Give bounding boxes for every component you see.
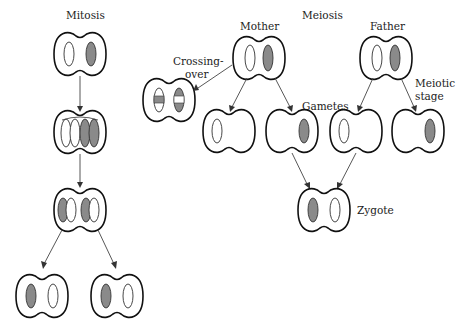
arrow-icon <box>41 230 62 269</box>
father-label: Father <box>370 20 406 32</box>
arrow-icon <box>337 153 356 189</box>
crossed-chromosome-right <box>174 88 184 112</box>
crossed-chromosome-left <box>154 88 164 112</box>
mother-cell <box>233 37 285 80</box>
arrow-icon <box>292 153 310 189</box>
meiotic-stage-label-line2: stage <box>415 90 444 102</box>
zygote-cell <box>298 189 350 232</box>
mother-gamete-cell-2 <box>266 110 318 153</box>
arrow-icon <box>357 78 373 112</box>
mitosis-parent-cell <box>54 33 106 76</box>
father-gamete-cell-2 <box>392 110 444 153</box>
crossing-over-label-line2: over <box>185 68 209 80</box>
meiosis-label: Meiosis <box>302 9 343 21</box>
zygote-label: Zygote <box>357 204 394 216</box>
father-cell <box>360 37 412 80</box>
mitosis-replicated-cell <box>54 111 106 154</box>
mother-label: Mother <box>240 20 280 32</box>
meiotic-stage-label-line1: Meiotic <box>415 77 455 89</box>
mitosis-dividing-cell <box>54 189 106 232</box>
arrow-icon <box>229 78 247 112</box>
arrow-icon <box>77 76 83 112</box>
mother-gamete-cell-1 <box>203 110 255 153</box>
mitosis-meiosis-diagram: Mitosis Meiosis Mother Father Crossing- … <box>0 0 462 323</box>
arrow-icon <box>275 78 293 112</box>
crossing-over-label-line1: Crossing- <box>173 55 224 67</box>
father-gamete-cell-1 <box>330 110 382 153</box>
crossing-over-cell <box>143 79 195 122</box>
mitosis-daughter-cell-left <box>16 275 68 318</box>
arrow-icon <box>98 230 117 269</box>
mitosis-label: Mitosis <box>66 9 105 21</box>
mitosis-daughter-cell-right <box>91 275 143 318</box>
arrow-icon <box>77 154 83 188</box>
